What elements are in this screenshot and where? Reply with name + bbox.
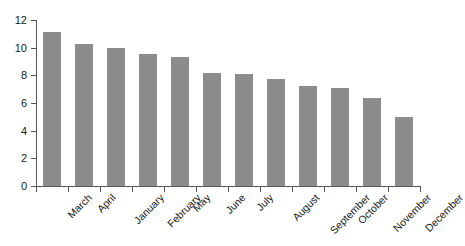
x-tick-label: January: [132, 192, 166, 226]
x-tick-label: March: [66, 192, 94, 220]
x-tick-label: April: [95, 192, 117, 214]
x-tick-label: June: [224, 192, 248, 216]
x-tick-label: August: [291, 192, 322, 223]
x-tick-label: July: [254, 192, 275, 213]
